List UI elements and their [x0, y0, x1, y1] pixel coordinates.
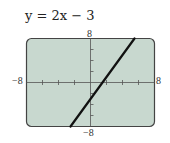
graph-window: [0, 0, 170, 143]
